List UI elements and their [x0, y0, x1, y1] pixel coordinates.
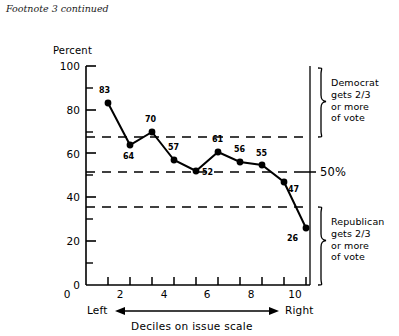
republican-brace [318, 207, 326, 285]
republican-line-4: of vote [331, 251, 384, 263]
data-label-4: 57 [168, 143, 179, 152]
data-label-6: 61 [212, 135, 223, 144]
data-point-10 [303, 225, 310, 232]
data-series-line [108, 103, 306, 228]
republican-line-1: Republican [331, 216, 384, 228]
data-point-7 [237, 159, 244, 166]
democrat-annotation: Democrat gets 2/3 or more of vote [331, 77, 379, 124]
data-label-7: 56 [234, 145, 245, 154]
y-minor-ticks [86, 88, 93, 263]
data-point-5 [193, 168, 200, 175]
midline-label: 50% [320, 165, 346, 179]
x-axis-title: Deciles on issue scale [131, 320, 253, 332]
data-label-2: 64 [123, 152, 134, 161]
data-label-10: 26 [287, 234, 298, 243]
democrat-line-1: Democrat [331, 77, 379, 89]
data-label-5: 52 [202, 168, 213, 177]
data-label-1: 83 [99, 86, 110, 95]
data-point-2 [127, 142, 134, 149]
republican-annotation: Republican gets 2/3 or more of vote [331, 216, 384, 263]
data-label-9: 47 [288, 185, 299, 194]
direction-arrow [115, 307, 279, 315]
data-point-9 [281, 179, 288, 186]
left-direction-label: Left [87, 304, 108, 316]
data-point-1 [105, 100, 112, 107]
republican-line-3: or more [331, 240, 384, 252]
data-point-3 [149, 129, 156, 136]
democrat-line-2: gets 2/3 [331, 89, 379, 101]
data-point-8 [259, 162, 266, 169]
democrat-brace [318, 68, 326, 137]
republican-line-2: gets 2/3 [331, 228, 384, 240]
chart-figure: Percent 100 80 60 40 20 0 0 2 4 6 8 10 [0, 0, 399, 336]
data-point-6 [215, 149, 222, 156]
democrat-line-4: of vote [331, 112, 379, 124]
data-point-4 [171, 157, 178, 164]
data-label-8: 55 [256, 149, 267, 158]
x-ticks [108, 277, 306, 285]
data-label-3: 70 [145, 115, 156, 124]
right-direction-label: Right [285, 304, 314, 316]
data-point-markers [105, 100, 310, 232]
democrat-line-3: or more [331, 101, 379, 113]
